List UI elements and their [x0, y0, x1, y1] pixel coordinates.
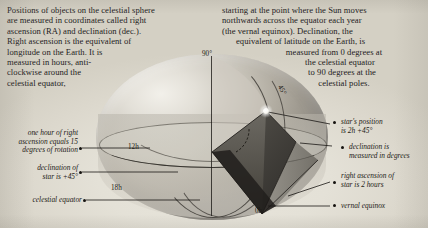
text-line: starting at the point where the Sun move… [222, 5, 367, 15]
callout-vernal-equinox: vernal equinox [341, 202, 385, 211]
callout-line: celestial equator [33, 195, 82, 204]
callout-declination-degrees: declination is measured in degrees [349, 143, 410, 160]
text-line: the celestial equator [222, 57, 422, 67]
tick-label-pole-90: 90° [202, 50, 212, 58]
text-line: are measured in coordinates called right [7, 15, 146, 25]
callout-right-ascension-star: right ascension of star is 2 hours [341, 172, 394, 189]
callout-dot-star-position [333, 121, 336, 124]
callout-declination-of-star: declination of star is +45° [8, 164, 78, 181]
tick-label-hour-0-bottom: 0h [255, 207, 262, 215]
callout-dot-vernal-equinox [333, 204, 336, 207]
callout-dot-one-hour [79, 147, 82, 150]
text-line: measured from 0 degrees at [222, 47, 422, 57]
text-line: celestial poles. [222, 78, 422, 88]
text-line: measured in hours, anti- [7, 57, 91, 67]
callout-line: is 2h +45° [341, 126, 372, 135]
text-line: Right ascension is the equivalent of [7, 36, 131, 46]
callout-one-hour-of-ra: one hour of right ascension equals 15 de… [8, 129, 78, 155]
callout-dot-celestial-equator [83, 199, 86, 202]
diagram-page: Positions of objects on the celestial sp… [0, 0, 428, 228]
callout-line: star is +45° [43, 172, 78, 181]
tick-label-hour-18: 18h [111, 184, 122, 192]
text-line: ascension (RA) and declination (dec.). [7, 26, 141, 36]
callout-celestial-equator: celestial equator [6, 196, 82, 205]
paragraph-right: starting at the point where the Sun move… [222, 5, 422, 88]
text-line: Positions of objects on the celestial sp… [7, 5, 155, 15]
callout-dot-declination-degrees [341, 146, 344, 149]
text-line: (the vernal equinox). Declination, the [222, 26, 353, 36]
text-line: longitude on the Earth. It is [7, 47, 103, 57]
callout-line: star is 2 hours [341, 180, 384, 189]
parallel-45-arc [124, 82, 302, 162]
callout-line: vernal equinox [341, 201, 385, 210]
callout-star-position: star's position is 2h +45° [341, 118, 383, 135]
tick-label-hour-12: 12h [128, 143, 139, 151]
text-line: to 90 degrees at the [222, 67, 422, 77]
star-marker [263, 108, 269, 114]
text-line: clockwise around the [7, 67, 81, 77]
callout-dot-declination-star [79, 171, 82, 174]
callout-dot-right-ascension-star [333, 181, 336, 184]
callout-line: degrees of rotation [22, 145, 78, 154]
text-line: northwards across the equator each year [222, 15, 362, 25]
callout-line: measured in degrees [349, 151, 410, 160]
text-line: equivalent of latitude on the Earth, is [222, 36, 422, 46]
paragraph-left: Positions of objects on the celestial sp… [7, 5, 207, 88]
text-line: celestial equator, [7, 78, 66, 88]
